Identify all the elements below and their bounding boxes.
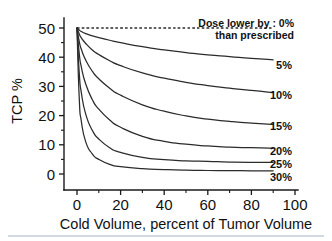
series-label-15pct: 15% — [270, 120, 292, 132]
series-label-5pct: 5% — [276, 59, 292, 71]
series-label-20pct: 20% — [270, 145, 292, 157]
curve-30pct — [77, 28, 273, 171]
y-tick-label-0: 0 — [47, 166, 55, 183]
x-axis-title: Cold Volume, percent of Tumor Volume — [60, 216, 312, 232]
x-tick-label-80: 80 — [243, 196, 260, 213]
annotation-line-2: than prescribed — [215, 29, 294, 41]
curve-15pct — [77, 28, 273, 124]
x-tick-label-20: 20 — [112, 196, 129, 213]
y-tick-label-50: 50 — [38, 20, 55, 37]
curves-group — [77, 28, 273, 171]
series-label-25pct: 25% — [270, 158, 292, 170]
x-tick-label-60: 60 — [199, 196, 216, 213]
annotation-line-1: Dose lower by : 0% — [198, 17, 294, 29]
y-tick-label-10: 10 — [38, 136, 55, 153]
x-tick-label-0: 0 — [73, 196, 81, 213]
series-label-30pct: 30% — [270, 171, 292, 183]
y-tick-label-40: 40 — [38, 49, 55, 66]
x-tick-label-40: 40 — [156, 196, 173, 213]
y-axis-title: TCP % — [9, 78, 25, 124]
tcp-vs-cold-volume-chart: 01020304050020406080100 5%10%15%20%25%30… — [0, 0, 332, 241]
y-tick-label-20: 20 — [38, 107, 55, 124]
y-tick-label-30: 30 — [38, 78, 55, 95]
series-label-10pct: 10% — [270, 89, 292, 101]
curve-25pct — [77, 28, 273, 162]
figure-container: 01020304050020406080100 5%10%15%20%25%30… — [0, 0, 332, 241]
x-tick-label-100: 100 — [282, 196, 307, 213]
curve-20pct — [77, 28, 273, 148]
